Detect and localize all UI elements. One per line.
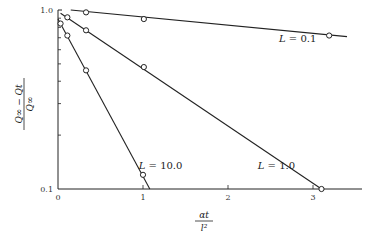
data-point-marker [319,186,324,191]
x-tick-label: 1 [140,193,145,202]
data-point-marker [141,16,146,21]
y-axis-label-numerator: Q∞ − Qt [14,84,24,124]
series-label: L = 1.0 [257,160,295,171]
x-tick-label: 2 [225,193,230,202]
series-l-0-1: L = 0.1 [71,10,347,45]
data-point-marker [58,21,63,26]
data-point-marker [65,33,70,38]
series-group: L = 0.1L = 1.0L = 10.0 [58,10,347,192]
x-tick-label: 0 [55,193,60,202]
data-point-marker [327,33,332,38]
data-point-marker [83,28,88,33]
data-point-marker [140,172,145,177]
x-axis-label-numerator: αt [199,210,209,220]
x-tick-label: 3 [310,193,315,202]
series-label: L = 0.1 [278,33,316,44]
data-point-marker [83,68,88,73]
data-point-marker [83,10,88,15]
log-decay-chart: 0.11.00123 L = 0.1L = 1.0L = 10.0 Q∞ − Q… [0,0,372,241]
y-tick-label: 0.1 [40,185,53,194]
series-label: L = 10.0 [138,160,183,171]
y-axis-label-denominator: Q∞ [25,97,35,112]
axis-labels: Q∞ − Qt Q∞ αt l² [14,78,213,233]
y-tick-label: 1.0 [40,6,53,15]
data-point-marker [141,64,146,69]
series-l-10-0: L = 10.0 [58,19,182,189]
series-line [58,19,150,189]
x-axis-label-denominator: l² [201,223,208,233]
data-point-marker [65,15,70,20]
